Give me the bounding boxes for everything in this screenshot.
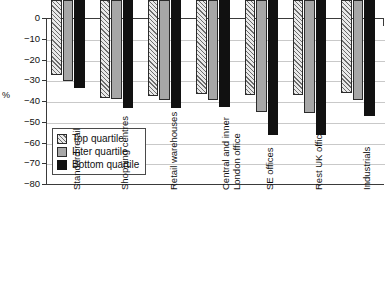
bar-inter-quartile — [63, 0, 74, 81]
bar-inter-quartile — [111, 0, 122, 99]
bar-top-quartile — [293, 0, 304, 95]
bar-bottom-quartile — [123, 0, 134, 108]
bar-top-quartile — [341, 0, 352, 93]
y-tick-label: −10 — [14, 34, 40, 44]
x-axis-baseline — [46, 184, 384, 185]
bar-inter-quartile — [208, 0, 219, 100]
bar-bottom-quartile — [364, 0, 375, 116]
bar-inter-quartile — [353, 0, 364, 100]
bar-top-quartile — [51, 0, 62, 75]
bar-inter-quartile — [256, 0, 267, 112]
bar-chart: % 0−10−20−30−40−50−60−70−80 Top quartile… — [0, 0, 388, 285]
y-axis-label: % — [2, 90, 10, 100]
y-axis-tick-labels: 0−10−20−30−40−50−60−70−80 — [14, 0, 40, 285]
y-tick-label: −20 — [14, 55, 40, 65]
y-tick-label: −50 — [14, 117, 40, 127]
y-tick-label: −40 — [14, 96, 40, 106]
bar-top-quartile — [148, 0, 159, 96]
bar-bottom-quartile — [171, 0, 182, 108]
bar-top-quartile — [100, 0, 111, 98]
bar-inter-quartile — [304, 0, 315, 113]
y-tick-mark — [42, 39, 46, 40]
y-tick-mark — [42, 101, 46, 102]
y-tick-label: −70 — [14, 158, 40, 168]
bar-bottom-quartile — [316, 0, 327, 135]
y-tick-mark — [42, 18, 46, 19]
y-tick-label: −60 — [14, 138, 40, 148]
bar-top-quartile — [245, 0, 256, 95]
y-tick-mark — [42, 60, 46, 61]
y-tick-label: −30 — [14, 75, 40, 85]
y-tick-label: −80 — [14, 179, 40, 189]
y-tick-mark — [42, 163, 46, 164]
bar-top-quartile — [196, 0, 207, 94]
bar-bottom-quartile — [268, 0, 279, 135]
bar-group — [245, 0, 279, 166]
y-tick-mark — [42, 122, 46, 123]
y-tick-label: 0 — [14, 13, 40, 23]
plot-right-edge — [383, 18, 384, 26]
bar-group — [341, 0, 375, 166]
y-tick-mark — [42, 143, 46, 144]
bar-bottom-quartile — [74, 0, 85, 88]
bar-bottom-quartile — [219, 0, 230, 107]
y-tick-mark — [42, 80, 46, 81]
bar-inter-quartile — [159, 0, 170, 100]
y-tick-mark — [42, 184, 46, 185]
